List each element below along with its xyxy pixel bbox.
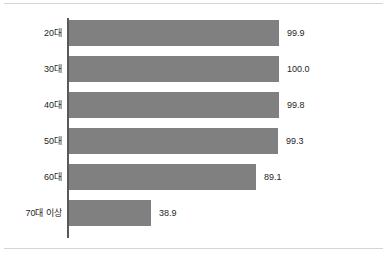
bar [69, 56, 279, 82]
bar-row: 50대99.3 [0, 128, 387, 154]
category-label: 20대 [0, 20, 62, 46]
bar-row: 20대99.9 [0, 20, 387, 46]
category-label: 70대 이상 [0, 200, 62, 226]
bar-row: 30대100.0 [0, 56, 387, 82]
value-label: 99.3 [286, 128, 304, 154]
value-label: 100.0 [287, 56, 310, 82]
bar [69, 128, 278, 154]
bar-chart-figure: 20대99.930대100.040대99.850대99.360대89.170대 … [0, 0, 387, 263]
bar [69, 200, 151, 226]
category-label: 40대 [0, 92, 62, 118]
axis-foot [67, 236, 68, 238]
bar [69, 92, 279, 118]
value-label: 99.9 [287, 20, 305, 46]
bar-row: 40대99.8 [0, 92, 387, 118]
bar-row: 70대 이상38.9 [0, 200, 387, 226]
category-label: 50대 [0, 128, 62, 154]
value-label: 38.9 [159, 200, 177, 226]
bar-row: 60대89.1 [0, 164, 387, 190]
plot-area: 20대99.930대100.040대99.850대99.360대89.170대 … [0, 0, 387, 245]
frame-line-bottom [4, 248, 383, 249]
value-label: 89.1 [264, 164, 282, 190]
category-label: 30대 [0, 56, 62, 82]
value-label: 99.8 [287, 92, 305, 118]
bar [69, 164, 256, 190]
bar [69, 20, 279, 46]
category-label: 60대 [0, 164, 62, 190]
